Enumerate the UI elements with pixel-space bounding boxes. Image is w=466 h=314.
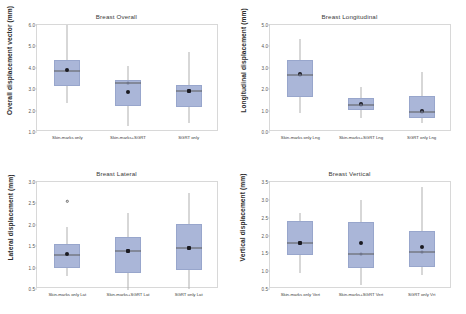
y-tick-mark (35, 182, 37, 183)
x-tick-label: Skin-marks only (52, 135, 83, 140)
mean-marker (187, 89, 191, 93)
y-tick-mark (268, 289, 270, 290)
y-tick-mark (35, 267, 37, 268)
x-tick-label: Skin-marks only Vert (281, 292, 320, 297)
x-tick-label: SGRT only Lng (407, 135, 436, 140)
x-tick-label: Skin-marks only Lat (48, 292, 86, 297)
y-axis-label: Longitudinal displacement (mm) (237, 0, 249, 120)
y-tick-mark (35, 132, 37, 133)
mean-marker (65, 68, 69, 72)
y-tick-mark (35, 89, 37, 90)
median-marker (420, 250, 423, 253)
mean-marker (298, 241, 302, 245)
chart-title: Breast Lateral (0, 170, 233, 177)
y-tick-mark (35, 25, 37, 26)
y-tick-mark (268, 199, 270, 200)
y-axis-label: Overall displacement vector (mm) (4, 0, 16, 120)
panel-breast-vertical: Breast Vertical Vertical displacement (m… (233, 157, 466, 314)
box (409, 96, 435, 118)
y-tick-mark (268, 110, 270, 111)
box (115, 237, 141, 273)
y-tick-mark (268, 46, 270, 47)
mean-marker (420, 245, 424, 249)
mean-marker (126, 249, 130, 253)
y-tick-mark (35, 289, 37, 290)
x-tick-label: SGRT only (178, 135, 199, 140)
box (176, 85, 202, 107)
panel-breast-overall: Breast Overall Overall displacement vect… (0, 0, 233, 157)
box (287, 221, 313, 256)
y-tick-mark (268, 253, 270, 254)
y-tick-mark (35, 246, 37, 247)
x-tick-label: Skin-marks+SGRT Lng (339, 135, 383, 140)
x-tick-label: Skin-marks+SGRT Lat (107, 292, 150, 297)
x-tick-label: SGRT only Lat (175, 292, 203, 297)
boxplot-figure: Breast Overall Overall displacement vect… (0, 0, 466, 314)
box (287, 60, 313, 96)
mean-marker (65, 252, 69, 256)
y-tick-mark (268, 217, 270, 218)
mean-marker (126, 90, 130, 94)
plot-area: 5.04.03.02.01.00.0Skin-marks only LngSki… (269, 24, 451, 131)
chart-title: Breast Overall (0, 13, 233, 20)
mean-marker (359, 241, 363, 245)
y-axis-label: Lateral displacement (mm) (4, 157, 16, 277)
plot-area: 6.05.04.03.02.01.0Skin-marks onlySkin-ma… (36, 24, 218, 131)
chart-title: Breast Vertical (233, 170, 466, 177)
median-marker (360, 253, 363, 256)
y-tick-mark (268, 132, 270, 133)
plot-area: 3.02.52.01.51.00.5Skin-marks only LatSki… (36, 181, 218, 288)
x-tick-label: SGRT only Vrt (408, 292, 435, 297)
y-tick-mark (268, 25, 270, 26)
box (54, 60, 80, 86)
y-axis-label: Vertical displacement (mm) (237, 157, 249, 277)
outlier-point (66, 200, 68, 202)
y-tick-mark (35, 203, 37, 204)
median-marker (420, 110, 423, 113)
y-tick-mark (35, 46, 37, 47)
y-tick-mark (268, 271, 270, 272)
y-tick-mark (268, 182, 270, 183)
y-tick-mark (35, 110, 37, 111)
chart-title: Breast Longitudinal (233, 13, 466, 20)
y-tick-mark (35, 67, 37, 68)
y-tick-mark (35, 224, 37, 225)
panel-breast-lateral: Breast Lateral Lateral displacement (mm)… (0, 157, 233, 314)
median-marker (127, 81, 130, 84)
box (54, 244, 80, 268)
panel-breast-longitudinal: Breast Longitudinal Longitudinal displac… (233, 0, 466, 157)
x-tick-label: Skin-marks only Lng (281, 135, 320, 140)
box (409, 231, 435, 267)
mean-marker (187, 246, 191, 250)
median-marker (299, 74, 302, 77)
y-tick-mark (268, 67, 270, 68)
x-tick-label: Skin-marks+SGRT Vert (339, 292, 384, 297)
y-tick-mark (268, 89, 270, 90)
x-tick-label: Skin-marks+SGRT (110, 135, 146, 140)
median-marker (360, 104, 363, 107)
plot-area: 3.53.02.52.01.51.00.5Skin-marks only Ver… (269, 181, 451, 288)
y-tick-mark (268, 235, 270, 236)
